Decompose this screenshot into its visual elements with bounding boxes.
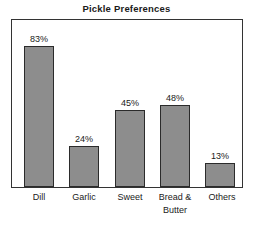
bar-slot-garlic: 24%: [69, 19, 99, 188]
bar-value-garlic: 24%: [55, 134, 113, 145]
x-label-dill-line1: Dill: [33, 192, 46, 202]
bar-slot-others: 13%: [205, 19, 235, 188]
chart-title: Pickle Preferences: [0, 3, 253, 15]
x-axis-labels: Dill Garlic Sweet Bread & Butter Others: [11, 191, 243, 229]
bar-others: [205, 163, 235, 187]
bar-sweet: [115, 110, 145, 187]
x-label-bread-and-butter-line1: Bread &: [159, 192, 192, 202]
bar-value-others: 13%: [191, 151, 249, 162]
x-label-dill: Dill: [14, 191, 64, 204]
bar-garlic: [69, 146, 99, 187]
x-label-sweet-line1: Sweet: [117, 192, 142, 202]
bar-slot-dill: 83%: [24, 19, 54, 188]
bar-value-bread-and-butter: 48%: [146, 93, 204, 104]
bar-chart: Pickle Preferences 83% 24% 45% 48% 13% D…: [0, 0, 253, 229]
x-label-garlic-line1: Garlic: [72, 192, 96, 202]
bar-slot-sweet: 45%: [115, 19, 145, 188]
x-label-bread-and-butter: Bread & Butter: [148, 191, 202, 217]
x-label-others-line1: Others: [208, 192, 235, 202]
x-label-others: Others: [197, 191, 247, 204]
x-label-garlic: Garlic: [59, 191, 109, 204]
bar-slot-bread-and-butter: 48%: [160, 19, 190, 188]
x-label-bread-and-butter-line2: Butter: [148, 204, 202, 217]
bar-bread-and-butter: [160, 105, 190, 187]
bars-layer: 83% 24% 45% 48% 13%: [11, 19, 243, 188]
bar-dill: [24, 46, 54, 187]
bar-value-dill: 83%: [10, 34, 68, 45]
